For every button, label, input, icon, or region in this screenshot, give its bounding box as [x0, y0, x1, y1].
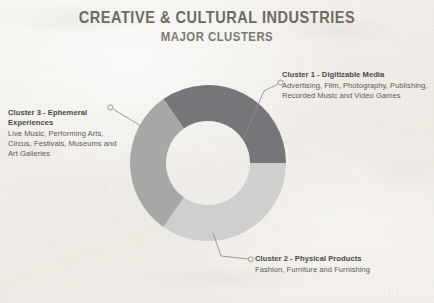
callout-cluster-3-title: Cluster 3 - Ephemeral Experiences [8, 108, 126, 128]
callout-cluster-2: Cluster 2 - Physical Products Fashion, F… [255, 254, 430, 275]
chart-header: CREATIVE & CULTURAL INDUSTRIES MAJOR CLU… [0, 8, 434, 45]
page-title: CREATIVE & CULTURAL INDUSTRIES [26, 8, 408, 27]
donut-slice-group: Cluster 1 - Digitizable MediaCluster 2 -… [130, 85, 286, 241]
page-subtitle: MAJOR CLUSTERS [26, 30, 408, 45]
callout-cluster-1: Cluster 1 - Digitizable Media Advertisin… [282, 70, 432, 101]
leader-dot-cluster-2 [248, 257, 253, 262]
donut-slice-2[interactable]: Cluster 2 - Physical Products [163, 163, 286, 241]
callout-cluster-3-description: Live Music, Performing Arts, Circus, Fes… [8, 129, 126, 160]
callout-cluster-3: Cluster 3 - Ephemeral Experiences Live M… [8, 108, 126, 159]
donut-slice-1[interactable]: Cluster 1 - Digitizable Media [163, 85, 286, 163]
callout-cluster-1-title: Cluster 1 - Digitizable Media [282, 70, 432, 80]
callout-cluster-2-title: Cluster 2 - Physical Products [255, 254, 430, 264]
callout-cluster-1-description: Advertising, Film, Photography, Publishi… [282, 81, 432, 101]
callout-cluster-2-description: Fashion, Furniture and Furnishing [255, 265, 430, 275]
donut-slice-3[interactable]: Cluster 3 - Ephemeral Experiences [130, 99, 184, 227]
